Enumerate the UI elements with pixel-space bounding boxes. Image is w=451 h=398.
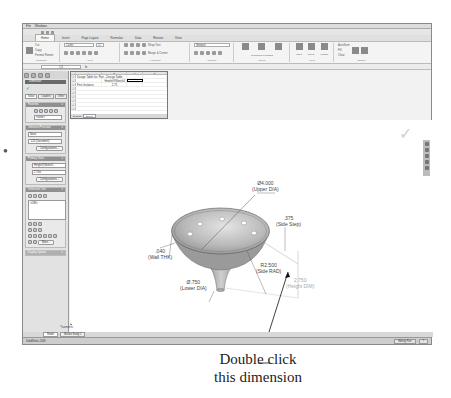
column-header[interactable]: D	[143, 72, 167, 74]
format-as-table-icon[interactable]	[258, 43, 265, 50]
side-rad-dimension[interactable]: R2.500(Side RAD)	[256, 263, 281, 274]
comma-icon[interactable]	[206, 51, 210, 55]
column-header[interactable]: C	[127, 72, 143, 74]
wrap-text-button[interactable]: Wrap Text	[148, 43, 161, 47]
cell[interactable]	[143, 79, 167, 82]
collapse-icon[interactable]: ˄	[61, 157, 63, 161]
cell[interactable]: Height@Sketch1	[102, 79, 128, 82]
autosum-button[interactable]: AutoSum	[338, 43, 350, 47]
fx-icon[interactable]: fx	[85, 65, 87, 69]
cut-button[interactable]: Cut	[35, 43, 54, 47]
dimension-name-field[interactable]: Height@Sketch1	[32, 163, 66, 168]
dimxpert-icon[interactable]	[45, 73, 50, 78]
increase-decimal-icon[interactable]	[212, 51, 216, 55]
symbol-7-icon[interactable]	[33, 240, 37, 244]
cell[interactable]	[143, 83, 167, 86]
justify-center-icon[interactable]	[33, 222, 37, 226]
center-dimension-icon[interactable]	[33, 194, 37, 198]
cell[interactable]: First Instance	[76, 83, 102, 86]
tab-other[interactable]: Other	[55, 94, 68, 99]
precision-select[interactable]: .123 (Document)	[28, 139, 62, 144]
number-format-select[interactable]: General	[194, 43, 230, 47]
percent-icon[interactable]	[200, 51, 204, 55]
file-menu[interactable]: File	[26, 24, 31, 28]
underline-icon[interactable]	[76, 51, 80, 55]
config-manager-icon[interactable]	[38, 73, 43, 78]
border-icon[interactable]	[82, 51, 86, 55]
cell[interactable]: Design Table for: Part - Design Table	[76, 75, 127, 78]
insert-button[interactable]: Insert	[296, 53, 302, 56]
offset-text-icon[interactable]	[38, 194, 42, 198]
name-box[interactable]: C3	[41, 65, 81, 69]
update-favorite-icon[interactable]	[44, 109, 48, 113]
bold-icon[interactable]	[64, 51, 68, 55]
status-help-icon[interactable]: ?	[419, 339, 428, 344]
tab-leaders[interactable]: Leaders	[38, 94, 53, 99]
collapse-icon[interactable]: ˄	[61, 103, 63, 107]
justify-left-icon[interactable]	[28, 222, 32, 226]
symbol-6-icon[interactable]	[53, 234, 57, 238]
symbol-5-icon[interactable]	[48, 234, 52, 238]
collapse-icon[interactable]: ˄	[61, 126, 63, 130]
expand-icon[interactable]: ˅	[61, 251, 63, 255]
find-select-icon[interactable]	[361, 47, 368, 54]
tab-view[interactable]: View	[170, 35, 186, 41]
degree-symbol-icon[interactable]	[33, 228, 37, 232]
upper-dia-dimension[interactable]: Ø4.000(Upper DIA)	[252, 181, 279, 192]
more-button[interactable]: More...	[38, 240, 54, 245]
collapse-icon[interactable]: ˄	[61, 188, 63, 192]
paste-icon[interactable]	[26, 47, 33, 54]
plusminus-symbol-icon[interactable]	[38, 228, 42, 232]
symbol-library-icon[interactable]	[28, 240, 32, 244]
symbol-3-icon[interactable]	[38, 234, 42, 238]
tab-formulas[interactable]: Formulas	[105, 35, 128, 41]
tolerance-configurations-button[interactable]: Configurations...	[36, 146, 63, 151]
apply-favorite-icon[interactable]	[34, 109, 38, 113]
font-size-select[interactable]: 11	[96, 43, 104, 47]
sheet-nav-icon[interactable]: ◂◂ ◂ ▸ ▸▸	[73, 115, 81, 118]
symbol-1-icon[interactable]	[28, 234, 32, 238]
property-manager-icon[interactable]	[31, 73, 36, 78]
column-header[interactable]: A	[76, 72, 102, 74]
tab-data[interactable]: Data	[130, 35, 146, 41]
save-favorite-icon[interactable]	[54, 109, 58, 113]
justify-icon[interactable]	[43, 194, 47, 198]
ok-check-icon[interactable]: ✓	[23, 85, 68, 91]
format-button[interactable]: Format	[320, 53, 328, 56]
insert-cells-icon[interactable]	[296, 43, 303, 50]
cell[interactable]	[127, 83, 143, 86]
font-color-icon[interactable]	[94, 51, 98, 55]
active-cell[interactable]	[127, 79, 143, 82]
copy-button[interactable]: Copy	[35, 48, 54, 52]
diameter-symbol-icon[interactable]	[28, 228, 32, 232]
align-middle-icon[interactable]	[130, 43, 134, 47]
decrease-decimal-icon[interactable]	[218, 51, 222, 55]
conditional-formatting-button[interactable]: Conditional Formatting	[251, 54, 273, 56]
graphics-viewport[interactable]: ✓	[70, 120, 432, 332]
favorites-select[interactable]: <none>	[34, 115, 62, 120]
align-right-icon[interactable]	[136, 51, 140, 55]
merge-center-button[interactable]: Merge & Center	[148, 51, 168, 55]
column-header[interactable]: B	[102, 72, 128, 74]
tab-review[interactable]: Review	[148, 35, 168, 41]
fill-button[interactable]: Fill	[338, 48, 350, 52]
symbol-4-icon[interactable]	[43, 234, 47, 238]
lower-dia-dimension[interactable]: Ø.750(Lower DIA)	[180, 280, 207, 291]
tab-home[interactable]: Home	[35, 34, 55, 41]
cell[interactable]	[143, 75, 167, 78]
sheet-tab[interactable]: Sheet1	[83, 114, 96, 118]
font-name-select[interactable]: Calibri	[64, 43, 94, 47]
delete-cells-icon[interactable]	[308, 43, 315, 50]
align-top-icon[interactable]	[124, 43, 128, 47]
align-left-icon[interactable]	[124, 51, 128, 55]
format-painter-button[interactable]: Format Painter	[35, 53, 54, 57]
clear-button[interactable]: Clear	[338, 53, 350, 57]
delete-favorite-icon[interactable]	[49, 109, 53, 113]
symbol-2-icon[interactable]	[33, 234, 37, 238]
value-configurations-button[interactable]: Configurations...	[36, 177, 63, 182]
tab-page-layout[interactable]: Page Layout	[77, 35, 104, 41]
side-step-dimension[interactable]: .375(Side Step)	[276, 216, 301, 227]
delete-button[interactable]: Delete	[308, 53, 315, 56]
tolerance-type-select[interactable]: None	[28, 132, 62, 137]
dimension-value-field[interactable]: 2.75in	[32, 170, 66, 175]
